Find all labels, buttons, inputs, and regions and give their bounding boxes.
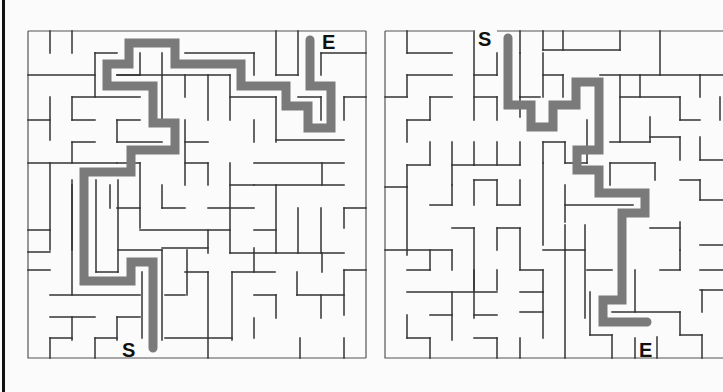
right-maze-start-label: S xyxy=(478,29,491,49)
left-maze-start-label: S xyxy=(122,340,135,360)
maze-canvas xyxy=(0,0,723,392)
right-maze-end-label: E xyxy=(639,340,652,360)
right-solution-path xyxy=(508,38,647,322)
left-maze-end-label: E xyxy=(322,32,335,52)
right-maze xyxy=(385,31,723,358)
left-maze xyxy=(28,31,366,358)
